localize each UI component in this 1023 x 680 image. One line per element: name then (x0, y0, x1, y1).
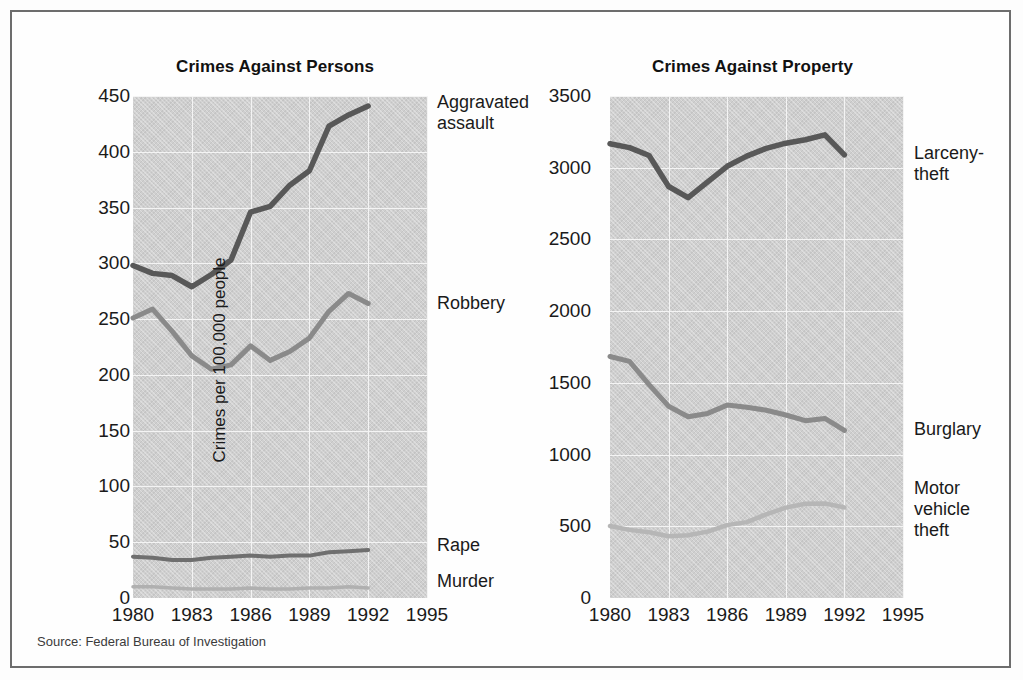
y-tick-label: 500 (559, 515, 591, 537)
gridline-vertical (427, 96, 428, 598)
x-tick-label: 1980 (589, 604, 631, 626)
figure-root: Crimes Against Persons 45040035030025020… (0, 0, 1023, 680)
plot-area-persons (133, 96, 427, 598)
gridline-vertical (903, 96, 904, 598)
y-tick-label: 150 (98, 420, 130, 442)
y-tick-label: 1000 (549, 444, 591, 466)
chart-panel-persons: Crimes Against Persons 45040035030025020… (0, 0, 520, 680)
series-lines-persons (133, 96, 427, 598)
x-tick-label: 1986 (706, 604, 748, 626)
y-tick-label: 450 (98, 85, 130, 107)
chart-title-property: Crimes Against Property (652, 57, 853, 77)
series-label-robbery: Robbery (437, 293, 505, 314)
x-tick-label: 1989 (288, 604, 330, 626)
series-label-rape: Rape (437, 535, 480, 556)
series-label-murder: Murder (437, 571, 494, 592)
series-label-larceny-theft: Larceny- theft (914, 143, 984, 185)
plot-area-property (610, 96, 903, 598)
x-tick-label: 1986 (229, 604, 271, 626)
y-tick-label: 50 (109, 531, 130, 553)
chart-title-persons: Crimes Against Persons (176, 57, 374, 77)
y-tick-label: 400 (98, 141, 130, 163)
series-label-motor-vehicle-theft: Motor vehicle theft (914, 478, 970, 541)
x-axis-ticks-persons: 198019831986198919921995 (133, 604, 427, 634)
y-tick-label: 3000 (549, 157, 591, 179)
y-axis-ticks-property: 3500300025002000150010005000 (531, 96, 591, 598)
y-tick-label: 2000 (549, 300, 591, 322)
y-axis-ticks-persons: 450400350300250200150100500 (70, 96, 130, 598)
x-tick-label: 1995 (406, 604, 448, 626)
x-tick-label: 1983 (647, 604, 689, 626)
x-tick-label: 1992 (347, 604, 389, 626)
series-label-burglary: Burglary (914, 419, 981, 440)
series-line-aggravated-assault (133, 106, 368, 287)
source-note: Source: Federal Bureau of Investigation (37, 634, 266, 649)
x-tick-label: 1989 (765, 604, 807, 626)
x-tick-label: 1995 (882, 604, 924, 626)
x-axis-ticks-property: 198019831986198919921995 (610, 604, 903, 634)
y-tick-label: 350 (98, 197, 130, 219)
y-tick-label: 2500 (549, 228, 591, 250)
x-tick-label: 1980 (112, 604, 154, 626)
series-line-murder (133, 587, 368, 589)
series-lines-property (610, 96, 903, 598)
series-line-burglary (610, 356, 844, 430)
y-tick-label: 100 (98, 475, 130, 497)
x-tick-label: 1992 (823, 604, 865, 626)
series-line-rape (133, 550, 368, 560)
series-line-robbery (133, 293, 368, 369)
y-axis-title: Crimes per 100,000 people (210, 195, 230, 525)
x-tick-label: 1983 (171, 604, 213, 626)
series-line-motor-vehicle-theft (610, 503, 844, 536)
series-line-larceny-theft (610, 135, 844, 198)
y-tick-label: 250 (98, 308, 130, 330)
y-tick-label: 3500 (549, 85, 591, 107)
y-tick-label: 200 (98, 364, 130, 386)
y-tick-label: 300 (98, 252, 130, 274)
y-tick-label: 1500 (549, 372, 591, 394)
